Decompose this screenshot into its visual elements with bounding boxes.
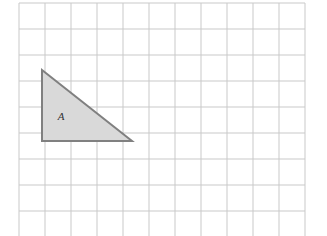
figure-canvas: A — [0, 0, 327, 236]
grid-and-shapes-svg: A — [0, 0, 327, 236]
triangle-a-label: A — [57, 110, 65, 122]
